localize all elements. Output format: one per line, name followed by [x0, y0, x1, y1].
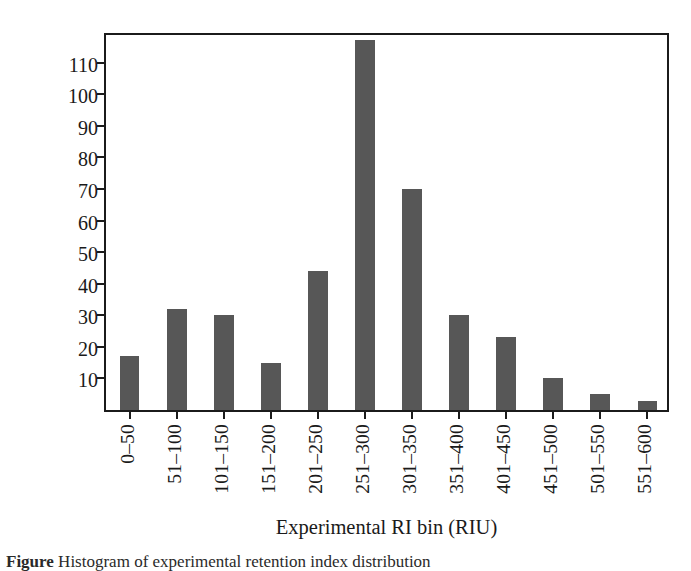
y-tick-label: 80: [42, 149, 98, 169]
y-tick-label: 50: [42, 244, 98, 264]
y-tick-label: 110: [42, 55, 98, 75]
y-tick-label: 40: [42, 276, 98, 296]
y-tick-mark: [97, 220, 106, 222]
y-tick-label: 20: [42, 339, 98, 359]
x-axis-tick-labels: 0–5051–100101–150151–200201–250251–30030…: [104, 412, 669, 512]
figure-caption: Figure Histogram of experimental retenti…: [6, 552, 686, 571]
bar: [120, 356, 140, 410]
x-tick-label: 401–450: [493, 424, 515, 520]
x-tick-label: 501–550: [587, 424, 609, 520]
y-tick-label: 100: [42, 86, 98, 106]
y-tick-label: 30: [42, 307, 98, 327]
figure-caption-prefix: Figure: [6, 552, 54, 571]
x-tick-label: 151–200: [258, 424, 280, 520]
y-tick-mark: [97, 377, 106, 379]
y-tick-label: 70: [42, 181, 98, 201]
y-tick-mark: [97, 125, 106, 127]
bar: [167, 309, 187, 410]
bar: [308, 271, 328, 410]
x-axis-title: Experimental RI bin (RIU): [104, 516, 669, 539]
figure-caption-text: Histogram of experimental retention inde…: [58, 552, 431, 571]
x-tick-label: 0–50: [117, 424, 139, 520]
x-tick-label: 201–250: [305, 424, 327, 520]
y-tick-mark: [97, 283, 106, 285]
x-tick-label: 351–400: [446, 424, 468, 520]
y-tick-label: 90: [42, 118, 98, 138]
y-axis-tick-labels: 102030405060708090100110: [36, 0, 98, 562]
x-tick-label: 451–500: [540, 424, 562, 520]
bar: [355, 40, 375, 410]
y-tick-label: 60: [42, 213, 98, 233]
x-tick-label: 251–300: [352, 424, 374, 520]
y-tick-mark: [97, 188, 106, 190]
plot-area: [104, 33, 669, 412]
y-tick-mark: [97, 156, 106, 158]
bar: [590, 394, 610, 410]
bar: [449, 315, 469, 410]
y-tick-mark: [97, 62, 106, 64]
bar: [543, 378, 563, 410]
bar: [214, 315, 234, 410]
x-tick-label: 101–150: [211, 424, 233, 520]
y-tick-mark: [97, 314, 106, 316]
x-tick-label: 551–600: [634, 424, 656, 520]
bar: [496, 337, 516, 410]
bar: [402, 189, 422, 410]
bar: [261, 363, 281, 410]
bar: [638, 401, 658, 410]
y-tick-label: 10: [42, 370, 98, 390]
x-tick-label: 301–350: [399, 424, 421, 520]
x-tick-label: 51–100: [164, 424, 186, 520]
y-tick-mark: [97, 346, 106, 348]
y-tick-mark: [97, 251, 106, 253]
bar-series: [106, 35, 667, 410]
y-tick-mark: [97, 93, 106, 95]
